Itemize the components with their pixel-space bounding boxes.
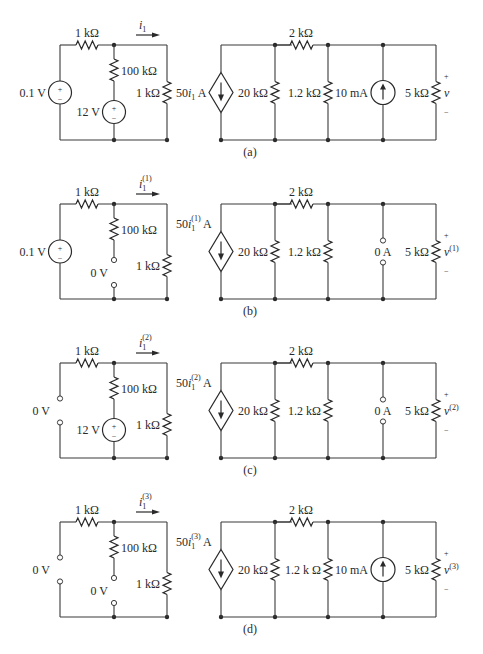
- panel-caption: (d): [243, 622, 257, 636]
- resistor-2k-label: 2 kΩ: [289, 185, 313, 199]
- output-voltage-label: v(1): [444, 244, 459, 259]
- minus-sign: −: [58, 254, 63, 263]
- superscript: (1): [191, 214, 201, 223]
- subscript: 1: [191, 224, 195, 233]
- plus-sign: +: [58, 244, 63, 253]
- resistor-1k-series: [76, 359, 98, 367]
- resistor-2k: [290, 41, 313, 49]
- open-terminal: [57, 555, 62, 560]
- dependent-current-source: [209, 550, 233, 590]
- resistor-1-2k: [324, 82, 332, 104]
- output-voltage-label: v(3): [444, 562, 459, 577]
- resistor-100k: [110, 59, 118, 81]
- resistor-1k-shunt-label: 1 kΩ: [136, 86, 160, 100]
- output-minus: −: [444, 585, 449, 594]
- arrow-up-icon: [380, 84, 386, 90]
- resistor-100k: [110, 218, 118, 240]
- open-terminal: [57, 579, 62, 584]
- minus-sign: −: [112, 114, 117, 123]
- dependent-current-source: [209, 73, 233, 113]
- resistor-20k-label: 20 kΩ: [238, 563, 268, 577]
- resistor-1k-shunt-label: 1 kΩ: [136, 259, 160, 273]
- dependent-current-source: [209, 391, 233, 431]
- resistor-2k: [290, 518, 313, 526]
- circuit-panel-a: 1 kΩ+−0.1 V100 kΩ+−12 V1 kΩi12 kΩ50i1 A2…: [20, 18, 450, 159]
- open-terminal: [111, 257, 116, 262]
- current-source-10ma-label: 10 mA: [335, 563, 368, 577]
- arrow-up-icon: [380, 561, 386, 567]
- circuit-panel-d: 1 kΩ0 V100 kΩ0 V1 kΩi1(3)2 kΩ50i1(3) A20…: [33, 492, 459, 636]
- open-terminal: [380, 397, 385, 402]
- resistor-100k-label: 100 kΩ: [121, 382, 157, 396]
- resistor-2k: [290, 359, 313, 367]
- resistor-1-2k-label: 1.2 kΩ: [288, 404, 321, 418]
- current-i1-label: i1: [139, 18, 146, 34]
- subscript: 1: [142, 25, 146, 34]
- resistor-100k-label: 100 kΩ: [121, 223, 157, 237]
- resistor-2k: [290, 200, 313, 208]
- voltage-source-12v-label: 12 V: [77, 423, 101, 437]
- panel-caption: (c): [243, 463, 256, 477]
- circuit-panel-b: 1 kΩ+−0.1 V100 kΩ0 V1 kΩi1(1)2 kΩ50i1(1)…: [20, 174, 459, 318]
- resistor-5k: [432, 400, 440, 422]
- open-terminal: [57, 396, 62, 401]
- short-mid-label: 0 V: [91, 584, 109, 598]
- variable: v: [444, 86, 450, 100]
- resistor-5k: [432, 241, 440, 263]
- arrow-right-icon: [152, 192, 160, 197]
- open-terminal: [111, 575, 116, 580]
- panel-caption: (a): [243, 145, 256, 159]
- subscript: 1: [142, 502, 146, 511]
- short-left-label: 0 V: [33, 563, 51, 577]
- dependent-source-label: 50i1(3) A: [176, 532, 212, 551]
- subscript: 1: [191, 383, 195, 392]
- plus-sign: +: [112, 422, 117, 431]
- resistor-20k-label: 20 kΩ: [238, 86, 268, 100]
- resistor-5k-label: 5 kΩ: [405, 86, 429, 100]
- output-voltage-label: v(2): [444, 403, 459, 418]
- subscript: 1: [142, 343, 146, 352]
- superscript: (2): [142, 333, 152, 342]
- open-terminal: [380, 419, 385, 424]
- resistor-5k-label: 5 kΩ: [405, 404, 429, 418]
- current-source-10ma-label: 10 mA: [335, 86, 368, 100]
- open-circuit-label: 0 A: [374, 404, 391, 418]
- coefficient: 50: [176, 535, 188, 549]
- resistor-1k-shunt-label: 1 kΩ: [136, 577, 160, 591]
- resistor-1k-series-label: 1 kΩ: [75, 503, 99, 517]
- current-i1-label: i1(3): [139, 492, 152, 511]
- resistor-1k-shunt: [163, 255, 171, 277]
- unit: A: [201, 535, 212, 549]
- resistor-1k-series: [76, 41, 98, 49]
- resistor-1-2k-label: 1.2 k Ω: [285, 563, 321, 577]
- resistor-1k-shunt: [163, 82, 171, 104]
- current-i1-label: i1(2): [139, 333, 152, 352]
- superposition-circuit-figure: 1 kΩ+−0.1 V100 kΩ+−12 V1 kΩi12 kΩ50i1 A2…: [0, 0, 483, 654]
- voltage-source-left-label: 0.1 V: [20, 86, 47, 100]
- resistor-1k-series: [76, 518, 98, 526]
- dependent-current-source: [209, 232, 233, 272]
- superscript: (3): [449, 562, 459, 571]
- arrow-down-icon: [218, 254, 224, 261]
- unit: A: [201, 217, 212, 231]
- resistor-100k-label: 100 kΩ: [121, 541, 157, 555]
- arrow-down-icon: [218, 572, 224, 579]
- resistor-2k-label: 2 kΩ: [289, 26, 313, 40]
- resistor-100k: [110, 536, 118, 558]
- resistor-1k-series-label: 1 kΩ: [75, 344, 99, 358]
- resistor-1k-series-label: 1 kΩ: [75, 26, 99, 40]
- voltage-source-12v-label: 12 V: [77, 105, 101, 119]
- open-terminal: [380, 238, 385, 243]
- current-i1-label: i1(1): [139, 174, 152, 193]
- circuit-panel-c: 1 kΩ0 V100 kΩ+−12 V1 kΩi1(2)2 kΩ50i1(2) …: [33, 333, 459, 477]
- resistor-5k-label: 5 kΩ: [405, 245, 429, 259]
- superscript: (1): [449, 244, 459, 253]
- dependent-source-label: 50i1 A: [176, 86, 207, 102]
- current-source-10ma: [371, 558, 395, 582]
- superscript: (2): [191, 373, 201, 382]
- dependent-source-label: 50i1(2) A: [176, 373, 212, 392]
- resistor-20k: [271, 241, 279, 263]
- plus-sign: +: [58, 85, 63, 94]
- superscript: (3): [142, 492, 152, 501]
- open-terminal: [111, 282, 116, 287]
